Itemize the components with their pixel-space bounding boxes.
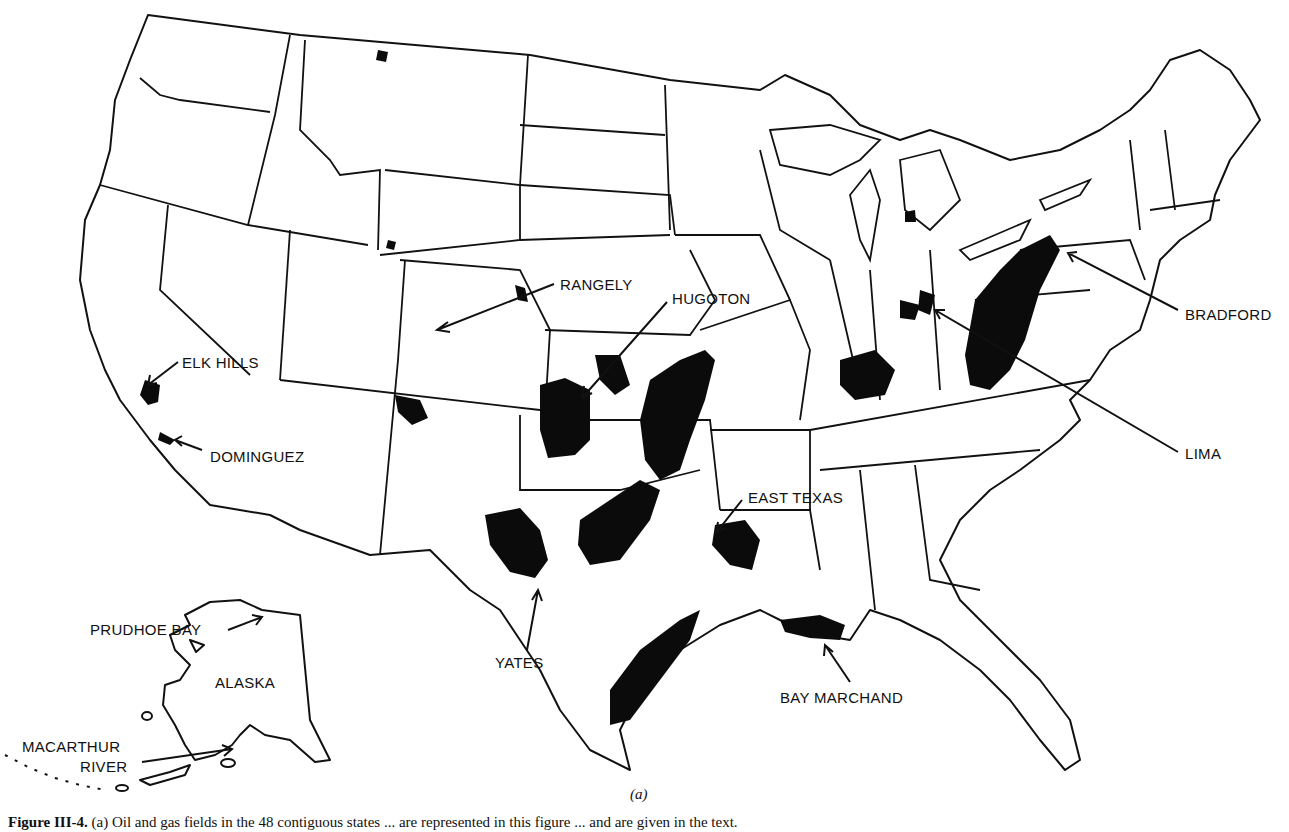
figure-sublabel: (a)	[630, 786, 648, 803]
svg-text:EAST TEXAS: EAST TEXAS	[748, 489, 843, 506]
caption-text: (a) Oil and gas fields in the 48 contigu…	[91, 814, 737, 830]
label-alaska: ALASKA	[215, 674, 275, 691]
oil-gas-fields-map: PRUDHOE BAY ALASKA MACARTHUR RIVER ELK H…	[0, 0, 1289, 832]
svg-text:RANGELY: RANGELY	[560, 276, 633, 293]
svg-text:PRUDHOE BAY: PRUDHOE BAY	[90, 621, 201, 638]
figure-caption: Figure III-4. (a) Oil and gas fields in …	[8, 814, 1288, 831]
svg-text:BAY MARCHAND: BAY MARCHAND	[780, 689, 903, 706]
svg-text:YATES: YATES	[495, 654, 543, 671]
svg-text:DOMINGUEZ: DOMINGUEZ	[210, 448, 304, 465]
caption-number: Figure III-4.	[8, 814, 88, 830]
svg-text:HUGOTON: HUGOTON	[672, 290, 751, 307]
svg-text:LIMA: LIMA	[1185, 445, 1221, 462]
svg-text:RIVER: RIVER	[80, 758, 127, 775]
svg-text:BRADFORD: BRADFORD	[1185, 306, 1272, 323]
svg-text:MACARTHUR: MACARTHUR	[22, 738, 120, 755]
svg-text:ELK HILLS: ELK HILLS	[182, 354, 259, 371]
label-bay-marchand: BAY MARCHAND	[780, 645, 903, 706]
